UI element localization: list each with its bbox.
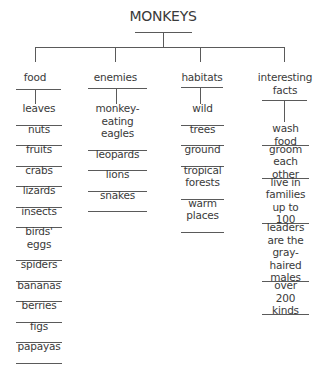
enemies-item: monkey- eating eagles [88, 102, 147, 140]
branch-food [35, 47, 36, 62]
facts-item: live in families up to 100 [262, 176, 309, 226]
facts-item: groom each other [262, 143, 309, 181]
food-item: bananas [16, 279, 62, 292]
category-enemies-underline [88, 88, 147, 89]
enemies-item-divider [88, 211, 147, 212]
habitats-item: wild [181, 102, 224, 115]
category-facts-stem [284, 100, 285, 122]
food-item: leaves [16, 102, 62, 115]
category-food-underline [16, 89, 61, 90]
branch-bar [35, 47, 285, 48]
food-item: spiders [16, 258, 62, 271]
branch-facts [284, 47, 285, 62]
food-item-divider [16, 363, 62, 364]
category-habitats-underline [181, 87, 223, 88]
food-item: crabs [16, 164, 62, 177]
food-item: lizards [16, 184, 62, 197]
food-item: insects [16, 205, 62, 218]
food-item: berries [16, 299, 62, 312]
food-item: nuts [16, 123, 62, 136]
food-item: fruits [16, 143, 62, 156]
habitats-item: tropical forests [181, 164, 224, 189]
facts-item-divider [262, 314, 309, 315]
enemies-item: leopards [88, 148, 147, 161]
category-enemies: enemies [83, 71, 148, 84]
habitats-item: warm places [181, 197, 224, 222]
category-interesting-facts: interesting facts [252, 71, 318, 96]
food-item: birds' eggs [16, 225, 62, 250]
habitats-item: ground [181, 143, 224, 156]
habitats-item: trees [181, 123, 224, 136]
diagram-title: MONKEYS [113, 10, 213, 23]
category-habitats: habitats [172, 71, 232, 84]
enemies-item: lions [88, 168, 147, 181]
facts-item: over 200 kinds [262, 279, 309, 317]
branch-enemies [115, 47, 116, 62]
title-stem [163, 32, 164, 47]
facts-item: leaders are the gray-haired males [262, 221, 309, 284]
enemies-item: snakes [88, 189, 147, 202]
branch-habitats [200, 47, 201, 62]
category-food: food [5, 71, 65, 84]
habitats-item-divider [181, 232, 224, 233]
food-item: figs [16, 320, 62, 333]
food-item: papayas [16, 340, 62, 353]
